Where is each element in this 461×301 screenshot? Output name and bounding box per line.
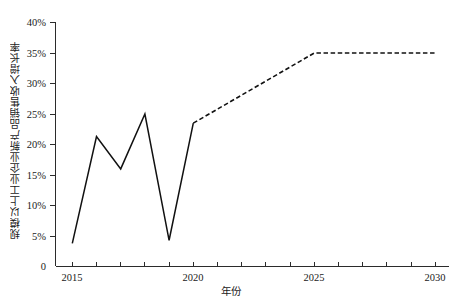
x-tick-marks [72,262,435,267]
plot-area [0,0,461,301]
y-tick-marks [50,23,56,237]
line-chart: 规模以上工业企业新产品销售收入增长率 40% 35% 30% 25% 20% 1… [0,0,461,301]
series-historical-line [72,114,193,243]
series-forecast-line [193,53,435,123]
